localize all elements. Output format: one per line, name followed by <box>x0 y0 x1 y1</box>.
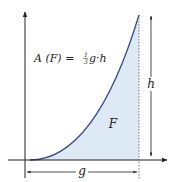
formula-lhs: A (F) = <box>33 52 78 65</box>
formula-rhs: g·h <box>89 52 107 65</box>
shaded-region-F <box>30 15 139 160</box>
height-label: h <box>147 77 155 91</box>
formula-fraction-numerator: 1 <box>84 51 88 58</box>
formula-fraction-denominator: 3 <box>84 58 88 65</box>
region-label: F <box>108 117 118 131</box>
area-formula: A (F) = 1 3 g·h <box>33 51 107 65</box>
width-label: g <box>78 164 86 178</box>
parabola-area-diagram: h g F A (F) = 1 3 g·h <box>0 0 174 182</box>
